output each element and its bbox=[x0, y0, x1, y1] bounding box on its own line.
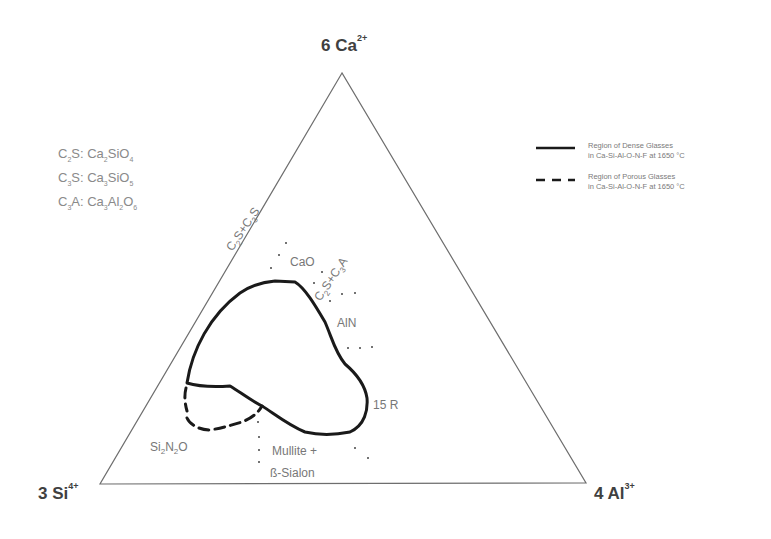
vertex-element: Si bbox=[52, 484, 68, 503]
abbreviation-c2s: C2S: Ca2SiO4 bbox=[58, 146, 133, 163]
legend-porous-glasses: Region of Porous Glasses in Ca-Si-Al-O-N… bbox=[588, 172, 685, 192]
abbreviation-c3a: C3A: Ca3Al2O6 bbox=[58, 194, 137, 211]
legend-line2: in Ca-Si-Al-O-N-F at 1650 °C bbox=[588, 151, 685, 161]
phase-label-aln: AlN bbox=[337, 316, 356, 330]
vertex-coef: 4 bbox=[594, 484, 603, 503]
vertex-charge: 2+ bbox=[357, 33, 367, 43]
dense-glass-region bbox=[187, 281, 367, 434]
phase-label-si2n2o: Si2N2O bbox=[150, 440, 188, 456]
legend-dense-glasses: Region of Dense Glasses in Ca-Si-Al-O-N-… bbox=[588, 141, 685, 161]
porous-glass-region bbox=[185, 388, 262, 430]
vertex-element: Ca bbox=[335, 36, 357, 55]
vertex-label-si: 3 Si4+ bbox=[38, 484, 79, 504]
vertex-coef: 6 bbox=[321, 36, 330, 55]
ternary-diagram bbox=[0, 0, 771, 539]
legend-line2: in Ca-Si-Al-O-N-F at 1650 °C bbox=[588, 182, 685, 192]
vertex-element: Al bbox=[608, 484, 625, 503]
ternary-triangle bbox=[100, 73, 586, 484]
legend-line1: Region of Porous Glasses bbox=[588, 172, 685, 182]
vertex-label-al: 4 Al3+ bbox=[594, 484, 635, 504]
abbreviation-c3s: C3S: Ca3SiO5 bbox=[58, 170, 133, 187]
phase-label-mullite: Mullite + bbox=[272, 444, 317, 458]
vertex-charge: 4+ bbox=[68, 481, 78, 491]
phase-label-sialon: ß-Sialon bbox=[270, 466, 315, 480]
phase-label-15r: 15 R bbox=[373, 398, 398, 412]
vertex-label-ca: 6 Ca2+ bbox=[321, 36, 367, 56]
phase-label-cao: CaO bbox=[290, 255, 315, 269]
legend-line1: Region of Dense Glasses bbox=[588, 141, 685, 151]
vertex-coef: 3 bbox=[38, 484, 47, 503]
vertex-charge: 3+ bbox=[625, 481, 635, 491]
